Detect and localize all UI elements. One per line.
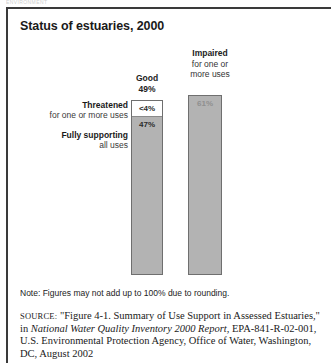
column-header-impaired: Impaired for one or more uses [176, 48, 244, 80]
row-label-threatened-soft: for one or more uses [10, 110, 128, 120]
row-label-fully-supporting: Fully supporting all uses [10, 130, 128, 150]
bar-segment-fully-supporting-value: 47% [132, 120, 162, 129]
bar-segment-threatened-value: <4% [132, 104, 162, 113]
column-header-good-value: 49% [138, 84, 155, 94]
bar-good: <4% 47% [131, 100, 163, 275]
ghost-running-header: ENVIRONMENT [6, 0, 126, 5]
row-label-threatened: Threatened for one or more uses [10, 100, 128, 120]
figure-note: Note: Figures may not add up to 100% due… [20, 288, 320, 299]
figure-source: SOURCE: "Figure 4-1. Summary of Use Supp… [20, 310, 325, 360]
bar-segment-impaired: 61% [189, 96, 221, 274]
source-line-1: SOURCE: "Figure 4-1. Summary of Use Supp… [20, 310, 325, 323]
source-line-1-text: "Figure 4-1. Summary of Use Support in A… [57, 310, 320, 321]
row-label-fully-supporting-strong: Fully supporting [10, 130, 128, 140]
figure-container: ENVIRONMENT Status of estuaries, 2000 Go… [0, 0, 331, 363]
source-line-3: U.S. Environmental Protection Agency, Of… [20, 335, 325, 348]
chart-plot-area: Good 49% Impaired for one or more uses T… [8, 40, 330, 280]
bar-segment-fully-supporting: 47% [132, 117, 162, 274]
source-line-2-prefix: in [20, 323, 31, 334]
figure-title: Status of estuaries, 2000 [20, 19, 164, 33]
bar-segment-threatened: <4% [132, 101, 162, 117]
top-rule [6, 7, 331, 9]
column-header-impaired-title: Impaired [192, 48, 227, 58]
row-label-threatened-strong: Threatened [10, 100, 128, 110]
source-line-4: DC, August 2002 [20, 348, 325, 361]
bar-segment-impaired-value: 61% [189, 99, 221, 108]
bar-impaired: 61% [188, 95, 222, 275]
source-publication-title: National Water Quality Inventory 2000 Re… [31, 323, 227, 334]
row-label-fully-supporting-soft: all uses [10, 140, 128, 150]
column-header-impaired-line1: for one or [192, 59, 228, 69]
column-header-impaired-line2: more uses [190, 69, 230, 79]
source-label: SOURCE: [20, 311, 57, 321]
column-header-good-title: Good [136, 73, 158, 83]
column-header-good: Good 49% [116, 73, 178, 94]
source-line-2: in National Water Quality Inventory 2000… [20, 323, 325, 336]
source-line-2-rest: , EPA-841-R-02-001, [227, 323, 317, 334]
